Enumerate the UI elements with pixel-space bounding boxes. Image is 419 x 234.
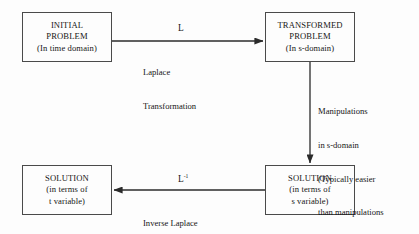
edge-label-manipulations-line2: in s-domain bbox=[318, 140, 384, 151]
edge-label-laplace-line2: Transformation bbox=[143, 101, 196, 112]
node-initial-problem-title2: PROBLEM bbox=[46, 31, 87, 42]
edge-label-manipulations-line1: Manipulations bbox=[318, 106, 384, 117]
laplace-transform-diagram: INITIAL PROBLEM (In time domain) TRANSFO… bbox=[0, 0, 419, 234]
edge-label-laplace: Laplace Transformation bbox=[143, 45, 196, 135]
node-transformed-problem-title2: PROBLEM bbox=[289, 31, 330, 42]
node-transformed-problem-title: TRANSFORMED bbox=[277, 20, 342, 31]
edge-label-manipulations: Manipulations in s-domain (Typically eas… bbox=[318, 84, 384, 234]
node-initial-problem-subtitle: (In time domain) bbox=[37, 43, 97, 54]
node-solution-t-subtitle: t variable) bbox=[49, 196, 85, 207]
edge-label-manipulations-line3: (Typically easier bbox=[318, 174, 384, 185]
edge-label-manipulations-line4: than manipulations bbox=[318, 207, 384, 218]
edge-label-laplace-line1: Laplace bbox=[143, 67, 196, 78]
node-transformed-problem-subtitle: (In s-domain) bbox=[286, 43, 334, 54]
node-solution-t-title: SOLUTION bbox=[45, 173, 89, 184]
node-solution-t-title2: (in terms of bbox=[46, 184, 87, 195]
node-initial-problem: INITIAL PROBLEM (In time domain) bbox=[22, 12, 112, 62]
edge-symbol-inverse-laplace: L-1 bbox=[178, 174, 188, 185]
edge-symbol-inverse-laplace-exponent: -1 bbox=[184, 173, 189, 179]
node-transformed-problem: TRANSFORMED PROBLEM (In s-domain) bbox=[265, 12, 355, 62]
edge-symbol-laplace: L bbox=[178, 24, 184, 33]
edge-symbol-laplace-base: L bbox=[178, 23, 184, 33]
edge-label-inverse-laplace: Inverse Laplace Transformation bbox=[143, 196, 198, 234]
edge-label-inverse-laplace-line1: Inverse Laplace bbox=[143, 218, 198, 229]
node-initial-problem-title: INITIAL bbox=[51, 20, 83, 31]
node-solution-t-variable: SOLUTION (in terms of t variable) bbox=[22, 165, 112, 215]
